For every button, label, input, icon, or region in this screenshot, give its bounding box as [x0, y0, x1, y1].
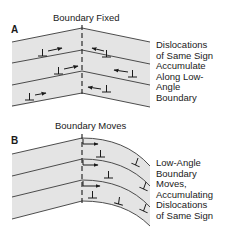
- panel-b-crystal: [12, 134, 150, 226]
- panel-a-crystal: [12, 25, 150, 107]
- dislocation-diagram: [0, 0, 226, 229]
